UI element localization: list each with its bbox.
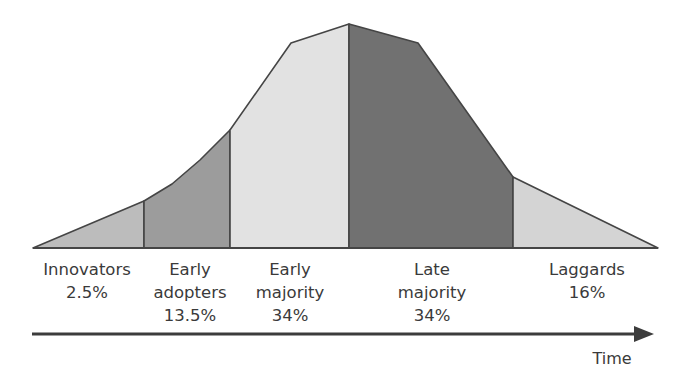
segment-name: majority xyxy=(256,281,324,304)
segment-name: Laggards xyxy=(549,258,625,281)
segment-name: Early xyxy=(256,258,324,281)
arrow-head-icon xyxy=(634,326,654,342)
segment-early-majority xyxy=(230,24,349,248)
segment-name: majority xyxy=(398,281,466,304)
label-late-majority: Latemajority34% xyxy=(398,258,466,327)
segment-early-adopters xyxy=(144,130,230,248)
segment-name: adopters xyxy=(153,281,226,304)
segment-percent: 2.5% xyxy=(43,281,131,304)
segment-name: Late xyxy=(398,258,466,281)
label-innovators: Innovators2.5% xyxy=(43,258,131,304)
time-axis-label: Time xyxy=(592,349,631,368)
segment-percent: 16% xyxy=(549,281,625,304)
segment-innovators xyxy=(33,201,144,248)
curve-segments xyxy=(33,24,658,248)
segment-name: Early xyxy=(153,258,226,281)
label-early-adopters: Earlyadopters13.5% xyxy=(153,258,226,327)
segment-percent: 34% xyxy=(398,304,466,327)
segment-late-majority xyxy=(349,24,513,248)
segment-laggards xyxy=(513,177,658,248)
segment-percent: 13.5% xyxy=(153,304,226,327)
label-laggards: Laggards16% xyxy=(549,258,625,304)
segment-name: Innovators xyxy=(43,258,131,281)
segment-percent: 34% xyxy=(256,304,324,327)
label-early-majority: Earlymajority34% xyxy=(256,258,324,327)
adoption-curve-diagram xyxy=(0,0,685,388)
